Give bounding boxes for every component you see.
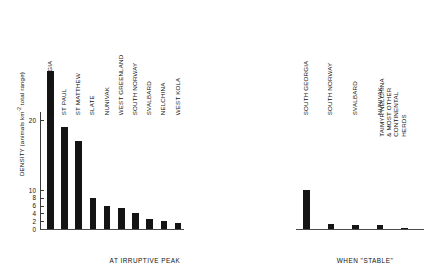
y-tick-label-8: 8 xyxy=(20,194,36,201)
y-tick-label-2: 2 xyxy=(20,218,36,225)
y-tick-8 xyxy=(40,198,44,199)
y-tick-label-0: 0 xyxy=(20,226,36,233)
bar-when-stable-0 xyxy=(303,190,310,229)
category-label-at-irruptive-peak-2: ST MATTHEW xyxy=(74,73,81,115)
y-tick-label-4: 4 xyxy=(20,210,36,217)
category-label-at-irruptive-peak-3: SLATE xyxy=(88,95,95,115)
bar-at-irruptive-peak-7 xyxy=(146,219,153,229)
y-tick-20 xyxy=(40,120,44,121)
y-tick-6 xyxy=(40,206,44,207)
bar-at-irruptive-peak-8 xyxy=(161,221,168,229)
y-tick-label-10: 10 xyxy=(20,187,36,194)
category-label-at-irruptive-peak-5: WEST GREENLAND xyxy=(117,55,124,116)
group-label-at-irruptive-peak: AT IRRUPTIVE PEAK xyxy=(60,257,230,264)
category-label-when-stable-0: SOUTH GEORGIA xyxy=(302,61,309,116)
y-tick-4 xyxy=(40,213,44,214)
category-label-at-irruptive-peak-4: NUNIVAK xyxy=(102,87,109,115)
category-label-at-irruptive-peak-8: NELCHINA xyxy=(159,82,166,115)
density-bar-chart: DENSITY (animals km-2 total range) 02468… xyxy=(0,0,430,278)
bar-at-irruptive-peak-3 xyxy=(90,198,97,229)
bar-when-stable-3 xyxy=(377,225,384,229)
category-label-at-irruptive-peak-1: ST PAUL xyxy=(60,89,67,115)
category-label-at-irruptive-peak-7: SVALBARD xyxy=(145,81,152,115)
bar-at-irruptive-peak-9 xyxy=(175,223,182,229)
category-label-at-irruptive-peak-9: WEST KOLA xyxy=(173,78,180,116)
category-label-when-stable-2: SVALBARD xyxy=(351,81,358,115)
group-label-when-stable: WHEN "STABLE" xyxy=(300,257,430,264)
bar-at-irruptive-peak-6 xyxy=(132,213,139,229)
y-tick-label-6: 6 xyxy=(20,202,36,209)
bar-at-irruptive-peak-5 xyxy=(118,208,125,229)
bar-at-irruptive-peak-2 xyxy=(75,141,82,229)
y-tick-2 xyxy=(40,221,44,222)
bar-when-stable-4 xyxy=(401,228,408,229)
bar-when-stable-2 xyxy=(352,225,359,229)
y-axis-title-exponent: -2 xyxy=(17,107,22,111)
y-tick-label-20: 20 xyxy=(20,117,36,124)
baseline-left-group xyxy=(40,229,184,230)
y-axis-line xyxy=(40,112,41,229)
y-tick-10 xyxy=(40,190,44,191)
bar-when-stable-1 xyxy=(328,224,335,229)
y-axis-title-post: total range) xyxy=(18,72,25,107)
category-label-at-irruptive-peak-6: SOUTH NORWAY xyxy=(131,63,138,116)
baseline-right-group xyxy=(296,229,424,230)
category-label-when-stable-4: TAIMYR NELCHINA & MOST OTHER CONTINENTAL… xyxy=(378,78,407,137)
bar-at-irruptive-peak-1 xyxy=(61,127,68,229)
y-axis-title: DENSITY (animals km-2 total range) xyxy=(17,49,25,199)
category-label-when-stable-1: SOUTH NORWAY xyxy=(326,63,333,116)
category-label-at-irruptive-peak-0: SOUTH GEORGIA xyxy=(46,61,53,116)
bar-at-irruptive-peak-4 xyxy=(104,206,111,229)
